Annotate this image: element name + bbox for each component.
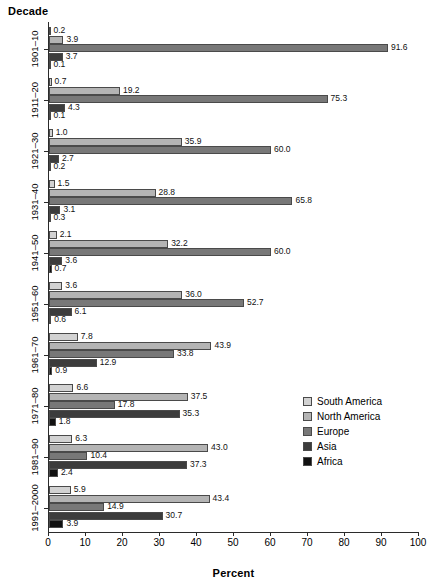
bar-value-label: 43.4 — [213, 493, 230, 504]
bar-value-label: 0.1 — [54, 110, 66, 121]
bar-row: 36.0 — [49, 291, 420, 299]
bar-value-label: 5.9 — [74, 484, 86, 495]
bar[interactable] — [49, 163, 51, 171]
x-tick — [159, 532, 160, 536]
bar[interactable] — [49, 44, 388, 52]
bar[interactable] — [49, 282, 62, 290]
bar[interactable] — [49, 291, 182, 299]
bar[interactable] — [49, 444, 208, 452]
bar-row: 2.4 — [49, 469, 420, 477]
bar[interactable] — [49, 95, 328, 103]
bar[interactable] — [49, 333, 78, 341]
bar[interactable] — [49, 61, 51, 69]
bar-row: 32.2 — [49, 240, 420, 248]
x-tick-label: 0 — [33, 537, 63, 548]
bar[interactable] — [49, 189, 156, 197]
bar-value-label: 52.7 — [247, 297, 264, 308]
bar-value-label: 0.2 — [54, 161, 66, 172]
legend-label: Europe — [317, 426, 349, 437]
bar-value-label: 37.5 — [191, 391, 208, 402]
bar-row: 0.6 — [49, 316, 420, 324]
bar[interactable] — [49, 78, 52, 86]
bar-value-label: 33.8 — [177, 348, 194, 359]
bar-row: 30.7 — [49, 512, 420, 520]
bar[interactable] — [49, 27, 51, 35]
bar[interactable] — [49, 469, 58, 477]
y-axis-title: Decade — [8, 5, 48, 17]
bar[interactable] — [49, 520, 63, 528]
bar-row: 0.2 — [49, 27, 420, 35]
bar-row: 3.1 — [49, 206, 420, 214]
bar-row: 1.0 — [49, 129, 420, 137]
legend-swatch-icon — [303, 427, 312, 436]
y-tick — [44, 49, 48, 50]
bar[interactable] — [49, 452, 87, 460]
bar[interactable] — [49, 503, 104, 511]
bar[interactable] — [49, 231, 57, 239]
bar[interactable] — [49, 265, 52, 273]
legend-item[interactable]: Europe — [303, 424, 418, 438]
bar-row: 5.9 — [49, 486, 420, 494]
bar-row: 0.2 — [49, 163, 420, 171]
bar-row: 7.8 — [49, 333, 420, 341]
bar[interactable] — [49, 214, 51, 222]
chart-legend: South AmericaNorth AmericaEuropeAsiaAfri… — [303, 394, 418, 469]
decade-label: 1981–90 — [29, 430, 41, 484]
bar-value-label: 19.2 — [123, 85, 140, 96]
legend-item[interactable]: North America — [303, 409, 418, 423]
bar-value-label: 1.8 — [59, 416, 71, 427]
bar-row: 43.4 — [49, 495, 420, 503]
bar-value-label: 6.1 — [75, 306, 87, 317]
bar[interactable] — [49, 435, 72, 443]
bar[interactable] — [49, 401, 115, 409]
bar-value-label: 37.3 — [190, 459, 207, 470]
bar-row: 19.2 — [49, 87, 420, 95]
legend-label: South America — [317, 396, 382, 407]
bar-value-label: 60.0 — [274, 144, 291, 155]
bar[interactable] — [49, 248, 271, 256]
bar-value-label: 0.7 — [55, 263, 67, 274]
legend-swatch-icon — [303, 397, 312, 406]
decade-label: 1921–30 — [29, 124, 41, 178]
decade-label: 1911–20 — [29, 73, 41, 127]
bar-value-label: 2.1 — [60, 229, 72, 240]
x-tick-label: 30 — [144, 537, 174, 548]
bar[interactable] — [49, 316, 51, 324]
bar[interactable] — [49, 36, 63, 44]
bar-value-label: 6.6 — [76, 382, 88, 393]
x-tick-label: 10 — [70, 537, 100, 548]
bar[interactable] — [49, 240, 168, 248]
bar-value-label: 3.6 — [65, 255, 77, 266]
bar-group: 5.943.414.930.73.9 — [49, 486, 419, 529]
bar-value-label: 0.1 — [54, 59, 66, 70]
bar[interactable] — [49, 367, 52, 375]
x-axis-title: Percent — [48, 567, 419, 579]
bar[interactable] — [49, 486, 71, 494]
x-tick-label: 40 — [181, 537, 211, 548]
bar[interactable] — [49, 418, 56, 426]
bar[interactable] — [49, 495, 210, 503]
x-tick — [122, 532, 123, 536]
bar-value-label: 3.9 — [66, 34, 78, 45]
bar[interactable] — [49, 112, 51, 120]
bar-value-label: 0.2 — [54, 25, 66, 36]
bar-row: 0.1 — [49, 61, 420, 69]
x-tick — [307, 532, 308, 536]
bar[interactable] — [49, 129, 53, 137]
legend-swatch-icon — [303, 457, 312, 466]
x-tick-label: 100 — [403, 537, 427, 548]
bar-row: 14.9 — [49, 503, 420, 511]
legend-item[interactable]: South America — [303, 394, 418, 408]
legend-item[interactable]: Africa — [303, 454, 418, 468]
bar-row: 6.1 — [49, 308, 420, 316]
bar-chart-figure: Decade 0.23.991.63.70.10.719.275.34.30.1… — [0, 0, 427, 579]
decade-label: 1971–80 — [29, 379, 41, 433]
bar[interactable] — [49, 138, 182, 146]
bar-row: 65.8 — [49, 197, 420, 205]
bar[interactable] — [49, 180, 55, 188]
bar[interactable] — [49, 146, 271, 154]
bar[interactable] — [49, 197, 292, 205]
legend-item[interactable]: Asia — [303, 439, 418, 453]
bar[interactable] — [49, 384, 73, 392]
bar[interactable] — [49, 87, 120, 95]
